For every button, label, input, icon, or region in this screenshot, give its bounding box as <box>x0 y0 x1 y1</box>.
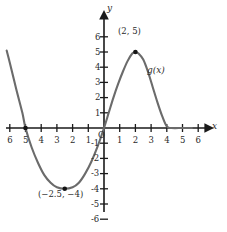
y-tick-label: -1 <box>91 139 99 148</box>
x-tick-label: 4 <box>164 136 169 145</box>
x-tick-label: 1 <box>117 136 122 145</box>
x-tick-label: 3 <box>149 136 154 145</box>
y-tick-label: 3 <box>95 78 100 87</box>
maximum-point-label: (2, 5) <box>118 27 141 36</box>
x-tick-label: 6 <box>7 136 12 145</box>
x-tick-label: 3 <box>54 136 59 145</box>
x-tick-label: 5 <box>180 136 185 145</box>
y-tick-label: 2 <box>95 93 100 102</box>
x-tick-label: 6 <box>196 136 201 145</box>
marked-point-maximum <box>133 50 138 55</box>
y-tick-label: -4 <box>91 185 99 194</box>
y-tick-label: -3 <box>91 169 99 178</box>
y-tick-label: -5 <box>91 200 99 209</box>
y-axis-label: y <box>107 4 112 13</box>
y-tick-label: 1 <box>95 109 100 118</box>
coordinate-plane <box>0 0 227 232</box>
axes <box>6 18 206 212</box>
x-tick-label: 5 <box>23 136 28 145</box>
x-tick-label: 2 <box>133 136 138 145</box>
marked-point-x-intercept <box>23 126 28 131</box>
y-tick-label: 6 <box>95 33 100 42</box>
curve-label-g-of-x: g(x) <box>147 66 165 75</box>
y-tick-label: -6 <box>91 215 99 224</box>
graph-figure: y x O (2, 5) (−2.5, −4) g(x) 65432112345… <box>0 0 227 232</box>
y-tick-label: 5 <box>95 48 100 57</box>
x-tick-label: 4 <box>39 136 44 145</box>
x-axis-label: x <box>212 122 217 131</box>
x-tick-label: 2 <box>70 136 75 145</box>
y-tick-label: -2 <box>91 154 99 163</box>
y-tick-label: 4 <box>95 63 100 72</box>
minimum-point-label: (−2.5, −4) <box>38 190 83 199</box>
